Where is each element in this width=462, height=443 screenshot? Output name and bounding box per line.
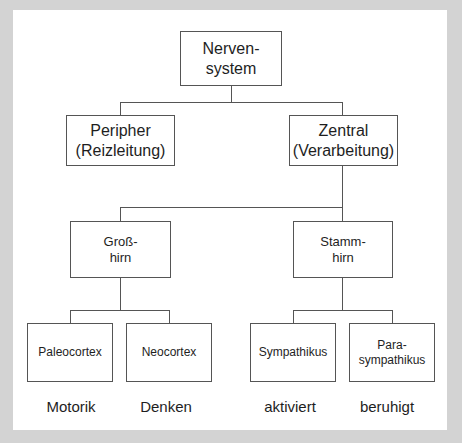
connector-line [120, 102, 343, 103]
caption-beruhigt: beruhigt [360, 398, 414, 415]
connector-line [342, 102, 343, 115]
connector-line [120, 102, 121, 115]
node-label: Nerven- system [203, 39, 260, 77]
connector-line [392, 310, 393, 323]
node-label: Neocortex [142, 345, 197, 359]
connector-line [120, 207, 343, 208]
connector-line [342, 278, 343, 310]
caption-aktiviert: aktiviert [264, 398, 316, 415]
node-neocortex: Neocortex [126, 323, 212, 382]
connector-line [120, 207, 121, 221]
node-grosshirn: Groß- hirn [70, 221, 171, 278]
node-label: Sympathikus [259, 345, 328, 359]
node-stammhirn: Stamm- hirn [293, 221, 393, 278]
node-sympathikus: Sympathikus [250, 323, 336, 382]
node-zentral: Zentral (Verarbeitung) [289, 115, 398, 166]
connector-line [169, 310, 170, 323]
connector-line [70, 310, 170, 311]
node-label: Zentral (Verarbeitung) [293, 121, 394, 159]
connector-line [70, 310, 71, 323]
caption-motorik: Motorik [46, 398, 95, 415]
node-label: Peripher (Reizleitung) [76, 121, 166, 159]
node-paleocortex: Paleocortex [27, 323, 113, 382]
node-label: Paleocortex [38, 345, 101, 359]
connector-line [342, 166, 343, 207]
connector-line [342, 207, 343, 221]
connector-line [293, 310, 294, 323]
node-label: Para- sympathikus [359, 338, 426, 367]
node-label: Groß- hirn [104, 234, 138, 265]
connector-line [293, 310, 393, 311]
node-parasympathikus: Para- sympathikus [349, 323, 435, 382]
connector-line [120, 278, 121, 310]
node-peripher: Peripher (Reizleitung) [66, 115, 175, 166]
node-label: Stamm- hirn [320, 234, 366, 265]
connector-line [231, 86, 232, 102]
caption-denken: Denken [140, 398, 192, 415]
node-nervensystem: Nerven- system [180, 31, 282, 86]
